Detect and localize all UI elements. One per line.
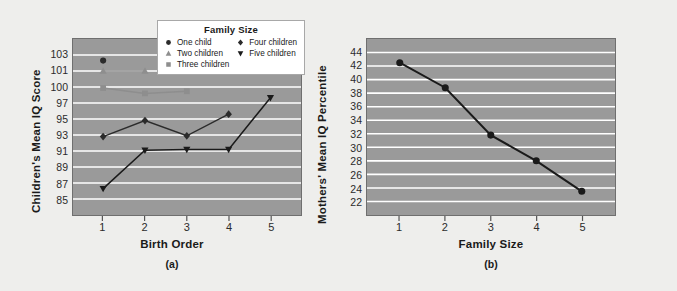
legend-item: Four children [235,37,299,48]
y-tick-label: 42 [350,59,362,71]
circle-marker-icon [163,37,174,48]
panel-a-x-tick-labels: 12345 [72,221,302,237]
triangle-down-marker-icon [235,48,246,59]
panel-b-caption: (b) [338,258,644,270]
y-tick-label: 26 [350,169,362,181]
x-tick-label: 5 [579,221,585,233]
legend-item: Two children [163,48,231,59]
y-tick-label: 44 [350,46,362,58]
x-tick-label: 1 [396,221,402,233]
data-point-marker [442,84,449,91]
data-point-marker [142,117,149,125]
data-point-marker [225,110,232,118]
x-tick-label: 4 [226,221,232,233]
y-tick-label: 100 [50,81,68,93]
legend: Family Size One childTwo childrenThree c… [157,20,305,75]
legend-item-label: Five children [249,49,295,58]
data-point-marker [578,188,585,195]
y-tick-label: 85 [56,194,68,206]
legend-item: Five children [235,48,299,59]
y-tick-label: 40 [350,73,362,85]
y-tick-label: 97 [56,97,68,109]
panel-b-x-tick-marks [366,216,616,222]
x-tick-label: 2 [142,221,148,233]
data-point-marker [487,132,494,139]
data-point-marker [100,58,106,64]
y-tick-label: 93 [56,129,68,141]
square-marker-icon [163,59,174,70]
data-point-marker [184,132,191,140]
series-line [400,63,582,192]
x-tick-label: 4 [534,221,540,233]
data-point-marker [100,133,107,141]
y-tick-label: 101 [50,64,68,76]
data-point-marker [184,88,190,94]
y-tick-label: 32 [350,128,362,140]
data-point-marker [142,91,148,97]
panel-b-y-axis-title: Mothers' Mean IQ Percentile [316,65,328,224]
y-tick-label: 24 [350,183,362,195]
panel-b-plot-area [366,38,616,216]
panel-a-x-tick-marks [72,216,302,222]
legend-item-label: One child [177,38,212,47]
panel-a-caption: (a) [42,258,302,270]
series-line [103,98,270,189]
legend-title: Family Size [163,24,299,35]
data-point-marker [100,85,106,91]
y-tick-label: 34 [350,114,362,126]
y-tick-label: 38 [350,87,362,99]
x-tick-label: 3 [488,221,494,233]
panel-a-x-axis-title: Birth Order [42,238,302,250]
panel-a-y-tick-labels: 10310110097959391898785 [38,38,68,216]
figure-container: Children's Mean IQ Score 103101100979593… [0,0,677,291]
y-tick-label: 30 [350,142,362,154]
panel-b-x-axis-title: Family Size [338,238,644,250]
legend-item-label: Three children [177,60,229,69]
triangle-up-marker-icon [163,48,174,59]
data-point-marker [396,59,403,66]
x-tick-label: 3 [184,221,190,233]
legend-item-label: Four children [249,38,297,47]
y-tick-label: 22 [350,196,362,208]
y-tick-label: 103 [50,48,68,60]
legend-item: Three children [163,59,231,70]
panel-b-x-tick-labels: 12345 [366,221,616,237]
y-tick-label: 95 [56,113,68,125]
y-tick-label: 91 [56,145,68,157]
series-line [103,114,229,136]
x-tick-label: 1 [99,221,105,233]
legend-column-2: Four childrenFive children [235,37,299,70]
legend-item: One child [163,37,231,48]
y-tick-label: 87 [56,178,68,190]
legend-column-1: One childTwo childrenThree children [163,37,231,70]
legend-items: One childTwo childrenThree childrenFour … [163,37,299,70]
diamond-marker-icon [235,37,246,48]
data-point-marker [100,186,107,192]
panel-b-data-series [367,39,615,215]
x-tick-label: 2 [442,221,448,233]
y-tick-label: 89 [56,161,68,173]
y-tick-label: 28 [350,155,362,167]
panel-b-y-tick-labels: 444240383634323028262422 [334,38,362,216]
x-tick-label: 5 [268,221,274,233]
data-point-marker [533,157,540,164]
legend-item-label: Two children [177,49,223,58]
y-tick-label: 36 [350,100,362,112]
panel-b: Mothers' Mean IQ Percentile 444240383634… [338,0,677,291]
